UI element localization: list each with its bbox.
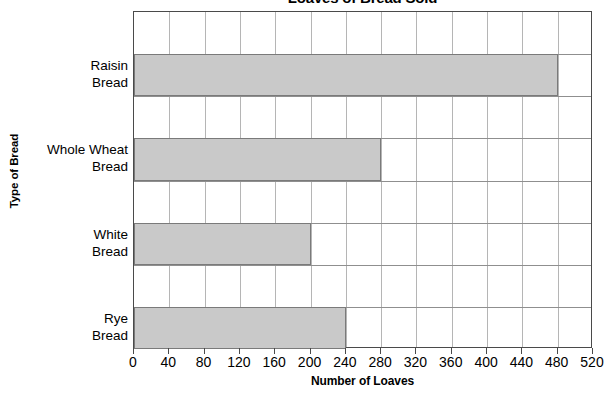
category-label: RyeBread [92,310,128,344]
bar [134,223,311,265]
category-label: Whole WheatBread [47,141,128,175]
chart-title: Loaves of Bread Sold [133,0,592,6]
y-gridline [134,181,591,182]
category-label-line: Bread [90,74,128,91]
x-tick-label: 480 [537,354,577,370]
category-label-line: Whole Wheat [47,141,128,158]
x-gridline [558,12,559,347]
category-label-line: Bread [92,327,128,344]
x-tick-label: 360 [431,354,471,370]
bar-chart: Loaves of Bread Sold Type of Bread Numbe… [0,0,613,399]
category-label: WhiteBread [92,226,128,260]
bar [134,138,381,180]
x-tick-label: 520 [572,354,612,370]
x-tick-label: 440 [501,354,541,370]
category-label-line: Rye [92,310,128,327]
category-label-line: Bread [92,243,128,260]
x-tick-label: 200 [290,354,330,370]
y-axis-title: Type of Bread [8,121,20,221]
plot-area [133,11,592,348]
category-label-line: Bread [47,158,128,175]
x-axis-title: Number of Loaves [133,374,592,388]
x-tick-label: 320 [395,354,435,370]
x-tick-label: 120 [219,354,259,370]
category-label-line: White [92,226,128,243]
x-tick-label: 280 [360,354,400,370]
x-tick-label: 400 [466,354,506,370]
y-gridline [134,265,591,266]
x-tick-label: 40 [148,354,188,370]
x-tick-label: 240 [325,354,365,370]
bar [134,54,558,96]
x-tick-label: 160 [254,354,294,370]
x-tick-label: 80 [184,354,224,370]
y-gridline [134,96,591,97]
bar [134,307,346,349]
category-label: RaisinBread [90,57,128,91]
x-tick-label: 0 [113,354,153,370]
category-label-line: Raisin [90,57,128,74]
